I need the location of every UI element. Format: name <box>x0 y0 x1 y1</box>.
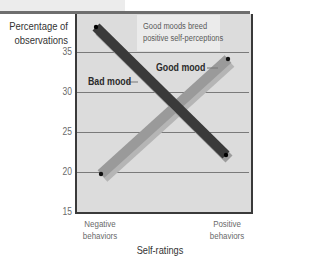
x-category-positive-line1: Positive <box>205 218 249 230</box>
data-point <box>94 25 98 29</box>
x-category-positive: Positive behaviors <box>205 218 249 242</box>
x-category-positive-line2: behaviors <box>205 230 249 242</box>
y-tick-15: 15 <box>55 206 72 217</box>
annotation-line2: positive self-perceptions <box>143 32 211 44</box>
y-tick-25: 25 <box>55 126 72 137</box>
annotation-line1: Good moods breed <box>143 20 211 32</box>
y-tick-30: 30 <box>55 86 72 97</box>
series-good-mood <box>99 57 231 178</box>
x-category-negative-line2: behaviors <box>78 230 122 242</box>
data-point <box>226 57 230 61</box>
data-point <box>99 172 103 176</box>
x-axis-title: Self-ratings <box>134 244 187 256</box>
data-point <box>224 153 228 157</box>
y-tick-35: 35 <box>55 46 72 57</box>
good-mood-label: Good mood <box>156 62 205 73</box>
x-category-negative-line1: Negative <box>78 218 122 230</box>
bad-mood-label: Bad mood <box>88 76 131 87</box>
y-tick-20: 20 <box>55 166 72 177</box>
x-category-negative: Negative behaviors <box>78 218 122 242</box>
annotation-box: Good moods breed positive self-perceptio… <box>137 15 220 51</box>
